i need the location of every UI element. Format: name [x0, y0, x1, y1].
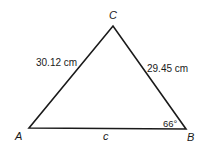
triangle-diagram: C A B 30.12 cm 29.45 cm c 66° — [0, 0, 205, 147]
vertex-label-c: C — [109, 9, 117, 21]
side-label-ac: 30.12 cm — [36, 57, 77, 68]
vertex-label-b: B — [187, 131, 194, 143]
side-label-ab: c — [103, 130, 109, 142]
side-label-bc: 29.45 cm — [147, 63, 188, 74]
angle-label-b: 66° — [163, 118, 178, 129]
vertex-label-a: A — [14, 130, 22, 142]
triangle-abc — [29, 26, 186, 129]
